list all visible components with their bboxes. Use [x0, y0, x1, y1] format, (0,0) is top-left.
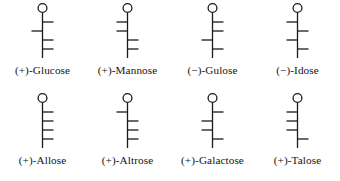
fischer-projection-glucose	[0, 0, 85, 64]
sugar-label-galactose: (+)-Galactose	[181, 154, 244, 167]
sugar-label-glucose: (+)-Glucose	[15, 64, 70, 77]
carbonyl-circle-icon	[293, 4, 302, 13]
fischer-projection-allose	[0, 90, 85, 154]
sugar-label-idose: (−)-Idose	[276, 64, 319, 77]
carbonyl-circle-icon	[208, 4, 217, 13]
sugar-row-bottom: (+)-Allose(+)-Altrose(+)-Galactose(+)-Ta…	[0, 90, 340, 181]
sugar-cell-mannose: (+)-Mannose	[85, 0, 170, 90]
sugar-cell-glucose: (+)-Glucose	[0, 0, 85, 90]
fischer-projection-mannose	[85, 0, 170, 64]
fischer-projection-idose	[255, 0, 340, 64]
carbonyl-circle-icon	[123, 94, 132, 103]
sugar-cell-idose: (−)-Idose	[255, 0, 340, 90]
carbonyl-circle-icon	[208, 94, 217, 103]
carbonyl-circle-icon	[38, 4, 47, 13]
sugar-cell-gulose: (−)-Gulose	[170, 0, 255, 90]
carbonyl-circle-icon	[123, 4, 132, 13]
sugar-label-talose: (+)-Talose	[274, 154, 322, 167]
sugar-structures-figure: (+)-Glucose(+)-Mannose(−)-Gulose(−)-Idos…	[0, 0, 340, 181]
sugar-cell-altrose: (+)-Altrose	[85, 90, 170, 181]
sugar-row-top: (+)-Glucose(+)-Mannose(−)-Gulose(−)-Idos…	[0, 0, 340, 90]
sugar-label-mannose: (+)-Mannose	[98, 64, 158, 77]
carbonyl-circle-icon	[293, 94, 302, 103]
sugar-label-gulose: (−)-Gulose	[187, 64, 237, 77]
fischer-projection-gulose	[170, 0, 255, 64]
sugar-cell-allose: (+)-Allose	[0, 90, 85, 181]
sugar-cell-talose: (+)-Talose	[255, 90, 340, 181]
sugar-label-altrose: (+)-Altrose	[102, 154, 154, 167]
sugar-label-allose: (+)-Allose	[19, 154, 67, 167]
fischer-projection-altrose	[85, 90, 170, 154]
fischer-projection-talose	[255, 90, 340, 154]
sugar-cell-galactose: (+)-Galactose	[170, 90, 255, 181]
carbonyl-circle-icon	[38, 94, 47, 103]
fischer-projection-galactose	[170, 90, 255, 154]
